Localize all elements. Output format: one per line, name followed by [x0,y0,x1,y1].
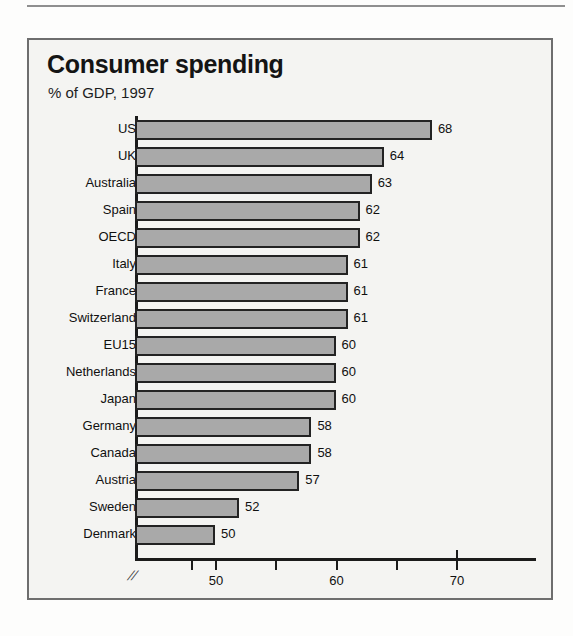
category-label: Germany [36,418,136,433]
bar-row: Netherlands60 [29,360,555,387]
bar-row: Switzerland61 [29,306,555,333]
x-axis-tick [336,561,338,570]
bar [135,201,360,221]
bar-value-label: 60 [342,364,356,379]
bar-row: Spain62 [29,198,555,225]
category-label: EU15 [36,337,136,352]
bar-value-label: 52 [245,499,259,514]
bar [135,309,348,329]
bar-row: Sweden52 [29,495,555,522]
bar [135,282,348,302]
bar-value-label: 50 [221,526,235,541]
bar-row: Austria57 [29,468,555,495]
x-axis-minor-tick [191,561,193,570]
bar-row: France61 [29,279,555,306]
category-label: Netherlands [36,364,136,379]
x-axis-tick [215,561,217,570]
x-axis-tick-label: 60 [329,573,343,588]
category-label: Austria [36,472,136,487]
bar [135,525,215,545]
bar [135,336,336,356]
plot-area: US68UK64Australia63Spain62OECD62Italy61F… [29,116,555,602]
bar-value-label: 63 [378,175,392,190]
bar-row: Italy61 [29,252,555,279]
bar-value-label: 58 [317,418,331,433]
bar-row: Germany58 [29,414,555,441]
bar-value-label: 68 [438,121,452,136]
scanned-page: Consumer spending % of GDP, 1997 US68UK6… [0,0,573,636]
category-label: US [36,121,136,136]
bar [135,498,239,518]
chart-panel: Consumer spending % of GDP, 1997 US68UK6… [27,38,553,600]
bar [135,471,299,491]
bar-value-label: 60 [342,337,356,352]
axis-break-icon: // [127,568,139,583]
category-label: Spain [36,202,136,217]
bar [135,174,372,194]
x-axis-minor-tick [275,561,277,570]
bar-row: OECD62 [29,225,555,252]
bar-value-label: 62 [366,202,380,217]
bar [135,390,336,410]
x-axis-minor-tick [396,561,398,570]
category-label: Canada [36,445,136,460]
bar-row: EU1560 [29,333,555,360]
category-label: Sweden [36,499,136,514]
category-label: France [36,283,136,298]
category-label: Italy [36,256,136,271]
bar-value-label: 64 [390,148,404,163]
bar-row: UK64 [29,144,555,171]
category-label: Denmark [36,526,136,541]
chart-title: Consumer spending [47,50,284,79]
category-label: Switzerland [36,310,136,325]
x-axis-tick [456,561,458,570]
bar-row: Canada58 [29,441,555,468]
bar [135,363,336,383]
bar-row: Japan60 [29,387,555,414]
bar [135,417,311,437]
x-axis-end-cap [456,550,458,561]
category-label: UK [36,148,136,163]
bar-value-label: 62 [366,229,380,244]
category-label: OECD [36,229,136,244]
bar-value-label: 57 [305,472,319,487]
bar-row: US68 [29,117,555,144]
category-label: Japan [36,391,136,406]
bar-row: Australia63 [29,171,555,198]
x-axis-tick-label: 70 [450,573,464,588]
bar-value-label: 61 [354,310,368,325]
category-label: Australia [36,175,136,190]
bar-value-label: 61 [354,283,368,298]
chart-subtitle: % of GDP, 1997 [48,84,154,101]
x-axis-tick-label: 50 [209,573,223,588]
bar [135,147,384,167]
bar [135,228,360,248]
bar [135,444,311,464]
bar-value-label: 58 [317,445,331,460]
bar [135,255,348,275]
page-top-rule [27,5,565,7]
bar-value-label: 61 [354,256,368,271]
bar-value-label: 60 [342,391,356,406]
bar [135,120,432,140]
bar-row: Denmark50 [29,522,555,549]
